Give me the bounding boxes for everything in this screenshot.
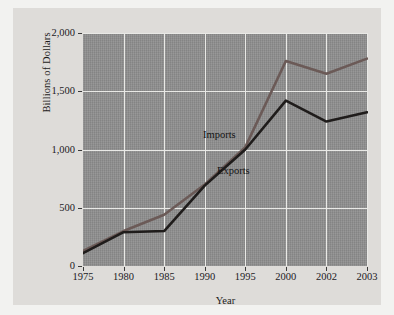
x-axis-tick-mark xyxy=(164,267,165,271)
figure-card: 05001,0001,5002,000 19751980198519901995… xyxy=(13,8,381,305)
x-axis-tick-label: 1990 xyxy=(184,272,225,283)
x-axis-tick-mark xyxy=(83,267,84,271)
x-axis-tick-label: 2003 xyxy=(347,272,388,283)
x-axis-title: Year xyxy=(83,295,368,306)
x-axis-tick-label: 1995 xyxy=(225,272,266,283)
y-axis-tick-label: 1,000 xyxy=(31,145,75,156)
y-axis-tick-mark xyxy=(78,208,82,209)
x-axis-tick-label: 1985 xyxy=(144,272,185,283)
x-axis-tick-mark xyxy=(205,267,206,271)
x-axis-tick-mark xyxy=(367,267,368,271)
x-axis-tick-label: 2002 xyxy=(306,272,347,283)
series-line-imports xyxy=(83,59,367,251)
y-axis-tick-label: 0 xyxy=(31,261,75,272)
x-axis-tick-mark xyxy=(124,267,125,271)
y-axis-tick-mark xyxy=(78,266,82,267)
figure-root: 05001,0001,5002,000 19751980198519901995… xyxy=(0,0,394,315)
y-axis-tick-label: 500 xyxy=(31,203,75,214)
series-label-exports: Exports xyxy=(217,166,250,177)
x-axis-tick-label: 1975 xyxy=(63,272,104,283)
y-axis-tick-mark xyxy=(78,91,82,92)
series-lines xyxy=(83,33,368,266)
y-axis-tick-mark xyxy=(78,150,82,151)
y-axis-tick-label: 2,000 xyxy=(31,28,75,39)
x-axis-tick-mark xyxy=(326,267,327,271)
x-axis-tick-label: 2000 xyxy=(266,272,307,283)
plot-area xyxy=(83,33,368,266)
x-axis-tick-label: 1980 xyxy=(103,272,144,283)
y-axis-title: Billions of Dollars xyxy=(41,99,52,113)
y-axis-tick-label: 1,500 xyxy=(31,86,75,97)
y-axis-tick-mark xyxy=(78,33,82,34)
series-label-imports: Imports xyxy=(203,130,236,141)
x-axis-tick-mark xyxy=(286,267,287,271)
x-axis-tick-mark xyxy=(245,267,246,271)
